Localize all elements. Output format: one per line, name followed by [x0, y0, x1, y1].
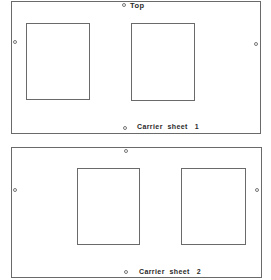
- registration-hole-left-icon: [13, 40, 17, 44]
- registration-hole-right-icon: [255, 188, 259, 192]
- sheet-1-window-2: [131, 23, 195, 101]
- carrier-sheet-2-label: Carrier sheet 2: [139, 268, 201, 276]
- sheet-2-window-2: [181, 168, 246, 245]
- top-label: Top: [130, 2, 144, 10]
- sheet-1-window-1: [26, 23, 90, 100]
- carrier-sheet-1-label: Carrier sheet 1: [137, 123, 199, 131]
- sheet-2-window-1: [77, 168, 140, 245]
- registration-hole-bottom-icon: [123, 126, 127, 130]
- registration-hole-bottom-icon: [124, 270, 128, 274]
- registration-hole-top-icon: [124, 149, 128, 153]
- registration-hole-top-icon: [122, 3, 126, 7]
- registration-hole-right-icon: [254, 42, 258, 46]
- registration-hole-left-icon: [13, 188, 17, 192]
